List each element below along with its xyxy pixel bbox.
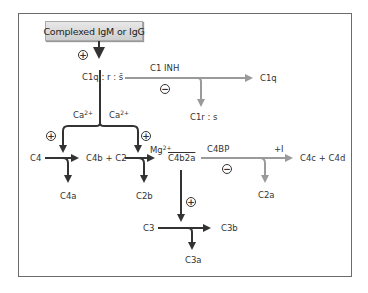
c2a-label: C2a (258, 191, 275, 200)
c3b-label: C3b (221, 224, 238, 233)
plus-icon: + (186, 197, 196, 207)
c4bp-label: C4BP (207, 145, 229, 154)
c4-label: C4 (30, 154, 41, 163)
c2b-label: C2b (136, 192, 153, 201)
c4b-c2-label: C4b + C2 (86, 154, 127, 163)
c1-complex-label: C1q : r : s̄ (82, 73, 123, 82)
ca-right-label: Ca2+ (109, 110, 129, 120)
c1-inh-label: C1 INH (150, 64, 179, 73)
c4a-label: C4a (60, 192, 77, 201)
plus-i-label: +I (274, 145, 284, 154)
plus-icon: + (46, 131, 56, 141)
plus-icon: + (78, 50, 88, 60)
minus-icon: − (222, 164, 232, 174)
c4c-c4d-label: C4c + C4d (300, 154, 345, 163)
c3a-label: C3a (185, 256, 202, 265)
ca-left-label: Ca2+ (73, 110, 93, 120)
c3-label: C3 (143, 224, 154, 233)
pathway-arrows (0, 0, 368, 293)
c4b2a-label: C4b2a (168, 154, 195, 163)
minus-icon: − (160, 84, 170, 94)
c1q-label: C1q (260, 74, 277, 83)
c1rs-label: C1r : s (190, 113, 218, 122)
plus-icon: + (141, 131, 151, 141)
